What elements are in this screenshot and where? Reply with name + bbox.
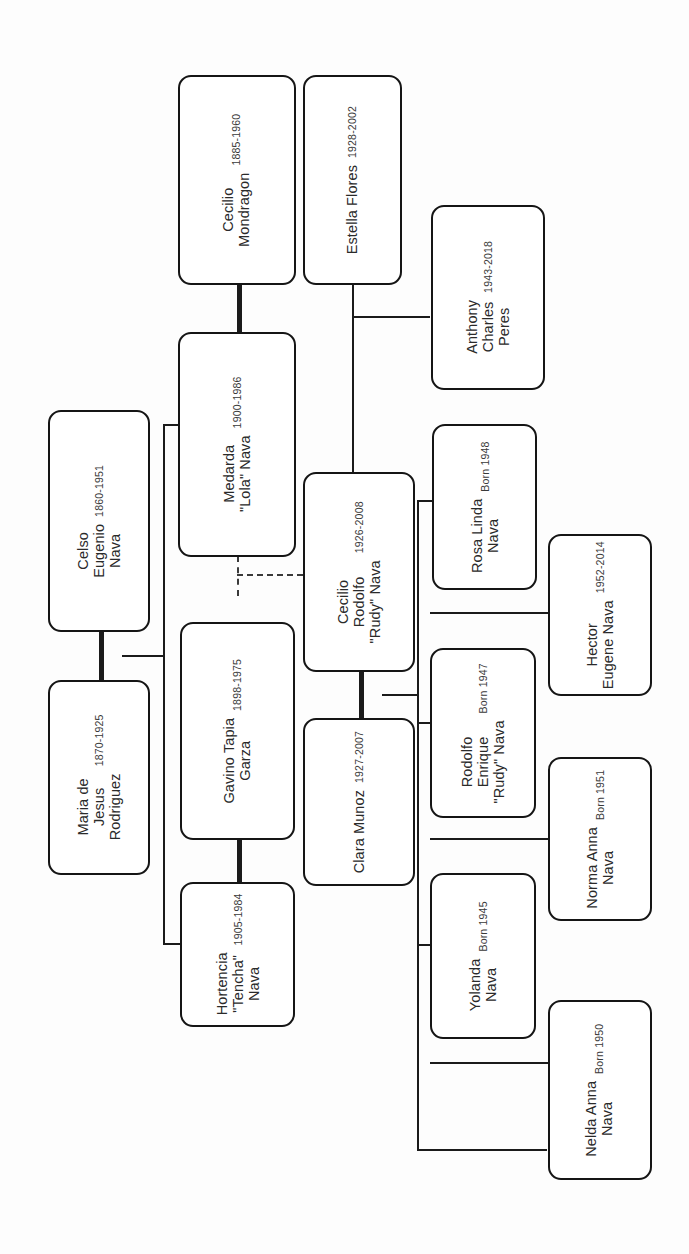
person-names: Celso Eugenio Nava bbox=[75, 524, 124, 578]
person-node-hortencia-tencha-nava[interactable]: Hortencia "Tencha" Nava 1905-1984 bbox=[180, 882, 295, 1027]
person-names: Gavino Tapia Garza bbox=[221, 718, 253, 804]
connector-mondragon-medarda bbox=[237, 284, 242, 332]
person-node-medarda-lola-nava[interactable]: Medarda "Lola" Nava 1900-1986 bbox=[178, 332, 296, 557]
person-names: Cecilio Mondragon bbox=[221, 172, 253, 246]
person-dates: 1905-1984 bbox=[232, 894, 244, 946]
person-names: Rodolfo Enrique "Rudy" Nava bbox=[459, 720, 508, 803]
person-name-line: Eugene Nava bbox=[600, 600, 616, 689]
connector-medarda-dashed-vertical bbox=[237, 556, 239, 596]
connector-medarda-dashed-horizontal bbox=[237, 574, 303, 576]
person-names: Maria de Jesus Rodriguez bbox=[75, 774, 124, 841]
person-names: Cecilio Rodolfo "Rudy" Nava bbox=[335, 560, 384, 643]
person-names: Hector Eugene Nava bbox=[584, 600, 616, 689]
person-name-line: Mondragon bbox=[237, 172, 253, 246]
person-node-maria-de-jesus-rodriguez[interactable]: Maria de Jesus Rodriguez 1870-1925 bbox=[48, 680, 150, 875]
person-names: Nelda Anna Nava bbox=[584, 1081, 616, 1157]
person-name-line: Nava bbox=[600, 851, 616, 885]
person-name-line: Cecilio bbox=[221, 187, 237, 231]
connector-bus-to-nelda-run bbox=[417, 1149, 547, 1151]
person-name-line: Charles bbox=[480, 302, 496, 353]
person-name-line: Hortencia bbox=[213, 953, 229, 1016]
person-name-line: "Tencha" bbox=[229, 955, 245, 1013]
person-name-line: Gavino Tapia bbox=[221, 718, 237, 804]
person-dates: 1885-1960 bbox=[231, 113, 243, 165]
connector-spur-nelda bbox=[430, 1062, 548, 1064]
person-name-line: Rodriguez bbox=[107, 774, 123, 841]
person-dates: 1898-1975 bbox=[232, 659, 244, 711]
person-name-line: Nava bbox=[246, 967, 262, 1001]
person-name-line: Rodolfo bbox=[459, 736, 475, 787]
connector-rudy-clara-marriage bbox=[359, 672, 364, 718]
person-name-line: Rosa Linda bbox=[468, 498, 484, 572]
person-name-line: Maria de bbox=[75, 778, 91, 835]
person-name-line: Nava bbox=[485, 519, 501, 553]
person-dates: Born 1945 bbox=[477, 901, 489, 951]
person-name-line: "Rudy" Nava bbox=[367, 560, 383, 643]
connector-bus-to-rosa bbox=[417, 500, 433, 502]
person-name-line: Rodolfo bbox=[351, 576, 367, 627]
person-name-line: Garza bbox=[238, 741, 254, 781]
person-dates: 1928-2002 bbox=[347, 106, 359, 158]
person-name-line: "Lola" Nava bbox=[237, 436, 253, 513]
person-node-nelda-anna-nava[interactable]: Nelda Anna Nava Born 1950 bbox=[548, 1000, 652, 1180]
person-name-line: Cecilio bbox=[335, 579, 351, 623]
connector-celso-children-bus bbox=[163, 424, 165, 944]
person-name-line: Nava bbox=[107, 533, 123, 567]
connector-bus-to-rodolfo bbox=[417, 722, 431, 724]
person-dates: Born 1948 bbox=[479, 441, 491, 491]
person-names: Estella Flores bbox=[344, 165, 360, 254]
person-dates: 1943-2018 bbox=[482, 241, 494, 293]
person-node-hector-eugene-nava[interactable]: Hector Eugene Nava 1952-2014 bbox=[548, 534, 652, 696]
person-names: Rosa Linda Nava bbox=[468, 498, 500, 572]
person-dates: Born 1950 bbox=[594, 1023, 606, 1073]
person-name-line: Nelda Anna bbox=[584, 1081, 600, 1157]
person-dates: Born 1951 bbox=[594, 770, 606, 820]
connector-estella-anthony bbox=[352, 316, 430, 318]
person-node-cecilio-mondragon[interactable]: Cecilio Mondragon 1885-1960 bbox=[178, 75, 296, 285]
person-node-celso-eugenio-nava[interactable]: Celso Eugenio Nava 1860-1951 bbox=[48, 410, 150, 632]
person-name-line: Eugenio bbox=[91, 524, 107, 578]
connector-celso-maria-stem bbox=[122, 655, 164, 657]
person-name-line: Yolanda bbox=[467, 958, 483, 1011]
connector-celso-maria-marriage bbox=[99, 630, 104, 682]
family-tree-diagram: Cecilio Mondragon 1885-1960 Estella Flor… bbox=[0, 0, 689, 1254]
person-name-line: Celso bbox=[75, 532, 91, 570]
person-name-line: Hector bbox=[584, 623, 600, 666]
person-name-line: Peres bbox=[496, 308, 512, 346]
person-name-line: Nava bbox=[483, 968, 499, 1002]
person-dates: 1927-2007 bbox=[353, 731, 365, 783]
person-name-line: Nava bbox=[600, 1102, 616, 1136]
person-node-estella-flores[interactable]: Estella Flores 1928-2002 bbox=[303, 75, 402, 285]
person-node-rodolfo-enrique-rudy-nava[interactable]: Rodolfo Enrique "Rudy" Nava Born 1947 bbox=[430, 648, 536, 818]
person-dates: 1900-1986 bbox=[231, 377, 243, 429]
connector-gavino-hortencia-marriage bbox=[237, 840, 242, 882]
person-names: Clara Munoz bbox=[351, 790, 367, 873]
person-names: Anthony Charles Peres bbox=[464, 300, 513, 354]
person-names: Hortencia "Tencha" Nava bbox=[213, 953, 262, 1016]
person-dates: 1860-1951 bbox=[93, 465, 105, 517]
person-node-gavino-tapia-garza[interactable]: Gavino Tapia Garza 1898-1975 bbox=[180, 622, 295, 840]
person-name-line: "Rudy" Nava bbox=[491, 720, 507, 803]
person-node-clara-munoz[interactable]: Clara Munoz 1927-2007 bbox=[303, 718, 415, 886]
connector-bus-to-hortencia bbox=[163, 943, 181, 945]
person-node-cecilio-rodolfo-rudy-nava[interactable]: Cecilio Rodolfo "Rudy" Nava 1926-2008 bbox=[303, 472, 415, 672]
connector-spur-norma bbox=[430, 838, 548, 840]
person-node-rosa-linda-nava[interactable]: Rosa Linda Nava Born 1948 bbox=[432, 424, 537, 590]
person-node-anthony-charles-peres[interactable]: Anthony Charles Peres 1943-2018 bbox=[431, 205, 545, 390]
person-node-norma-anna-nava[interactable]: Norma Anna Nava Born 1951 bbox=[548, 757, 652, 921]
person-dates: 1926-2008 bbox=[353, 501, 365, 553]
person-names: Norma Anna Nava bbox=[584, 827, 616, 909]
connector-rudy-clara-stem bbox=[382, 694, 418, 696]
person-name-line: Jesus bbox=[91, 788, 107, 826]
person-names: Medarda "Lola" Nava bbox=[221, 436, 253, 513]
person-name-line: Medarda bbox=[221, 445, 237, 503]
connector-bus-to-yolanda bbox=[417, 944, 431, 946]
person-name-line: Norma Anna bbox=[584, 827, 600, 909]
person-name-line: Estella Flores bbox=[344, 165, 360, 254]
person-name-line: Anthony bbox=[464, 300, 480, 354]
person-dates: 1952-2014 bbox=[594, 541, 606, 593]
person-node-yolanda-nava[interactable]: Yolanda Nava Born 1945 bbox=[430, 873, 536, 1039]
connector-spur-hector bbox=[430, 612, 548, 614]
person-name-line: Enrique bbox=[475, 736, 491, 787]
person-dates: Born 1947 bbox=[477, 663, 489, 713]
